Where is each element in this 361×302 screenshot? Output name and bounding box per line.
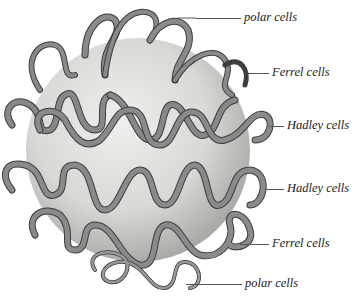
label-hadley-cells-south: Hadley cells <box>287 182 349 195</box>
label-ferrel-cells-north: Ferrel cells <box>272 66 330 79</box>
circulation-diagram <box>0 0 361 302</box>
label-polar-cells-north: polar cells <box>244 11 297 24</box>
label-ferrel-cells-south: Ferrel cells <box>272 237 330 250</box>
label-hadley-cells-north: Hadley cells <box>287 119 349 132</box>
leader-ferrel-north <box>247 73 269 74</box>
globe <box>26 38 250 262</box>
leader-hadley-north <box>270 126 284 127</box>
leader-hadley-south <box>265 189 284 190</box>
label-polar-cells-south: polar cells <box>245 277 298 290</box>
leader-polar-north <box>196 18 241 19</box>
leader-ferrel-south <box>240 244 269 245</box>
leader-polar-south <box>186 284 242 285</box>
